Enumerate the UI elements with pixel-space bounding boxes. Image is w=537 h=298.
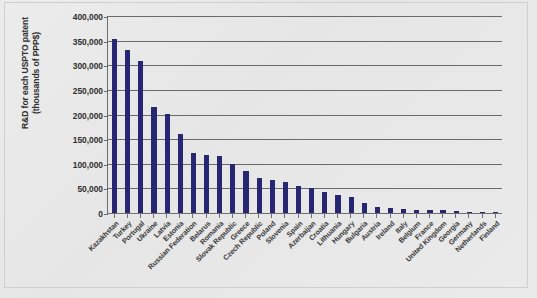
- bar-slot[interactable]: [489, 16, 502, 213]
- bar-slot[interactable]: [108, 16, 121, 213]
- bar-slot[interactable]: [437, 16, 450, 213]
- bar[interactable]: [151, 107, 156, 213]
- bar[interactable]: [125, 50, 130, 213]
- bar-slot[interactable]: [397, 16, 410, 213]
- bar-slot[interactable]: [187, 16, 200, 213]
- bar[interactable]: [165, 114, 170, 213]
- y-axis-title-line1: R&D for each USPTO patent: [20, 0, 31, 168]
- y-axis-title-line2: (thousands of PPP$): [31, 0, 42, 168]
- bar-slot[interactable]: [463, 16, 476, 213]
- y-tick-label: 100,000: [47, 160, 108, 170]
- bar-slot[interactable]: [253, 16, 266, 213]
- bar-slot[interactable]: [450, 16, 463, 213]
- bar-slot[interactable]: [410, 16, 423, 213]
- y-tick-label: 250,000: [47, 86, 108, 96]
- y-tick-label: 200,000: [47, 111, 108, 121]
- bar-slot[interactable]: [331, 16, 344, 213]
- bar-slot[interactable]: [239, 16, 252, 213]
- chart-page: R&D for each USPTO patent (thousands of …: [0, 0, 537, 298]
- bar-chart: R&D for each USPTO patent (thousands of …: [0, 0, 537, 298]
- bar-slot[interactable]: [384, 16, 397, 213]
- x-label-slot: Finland: [488, 219, 501, 289]
- bars-group: [108, 16, 502, 213]
- bar-slot[interactable]: [213, 16, 226, 213]
- bar-slot[interactable]: [423, 16, 436, 213]
- bar-slot[interactable]: [371, 16, 384, 213]
- bar-slot[interactable]: [174, 16, 187, 213]
- bar-slot[interactable]: [305, 16, 318, 213]
- bar-slot[interactable]: [279, 16, 292, 213]
- y-tick-label: 0: [47, 209, 108, 219]
- bar-slot[interactable]: [318, 16, 331, 213]
- y-tick-label: 300,000: [47, 61, 108, 71]
- bar-slot[interactable]: [134, 16, 147, 213]
- bar-slot[interactable]: [161, 16, 174, 213]
- y-axis-title: R&D for each USPTO patent (thousands of …: [20, 0, 42, 168]
- bar-slot[interactable]: [121, 16, 134, 213]
- bar-slot[interactable]: [345, 16, 358, 213]
- bar-slot[interactable]: [147, 16, 160, 213]
- y-tick-label: 50,000: [47, 184, 108, 194]
- bar-slot[interactable]: [358, 16, 371, 213]
- y-tick-label: 400,000: [47, 12, 108, 22]
- bar[interactable]: [112, 39, 117, 213]
- y-tick-label: 350,000: [47, 37, 108, 47]
- bar-slot[interactable]: [200, 16, 213, 213]
- plot-area: 400,000350,000300,000250,000200,000150,0…: [107, 16, 501, 213]
- x-axis-labels: KazakhstanTurkeyPortugalUkraineLatviaEst…: [107, 219, 501, 289]
- bar[interactable]: [178, 134, 183, 213]
- y-tick-label: 150,000: [47, 135, 108, 145]
